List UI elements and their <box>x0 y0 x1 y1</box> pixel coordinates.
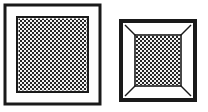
left-panel-hatched-fill <box>19 19 87 91</box>
figure-canvas: Two square framed panels with hatched fi… <box>0 0 208 112</box>
left-panel-group <box>5 5 100 104</box>
diagram-svg <box>0 0 208 112</box>
right-panel-group <box>121 21 195 100</box>
right-panel-hatched-fill <box>136 36 180 85</box>
